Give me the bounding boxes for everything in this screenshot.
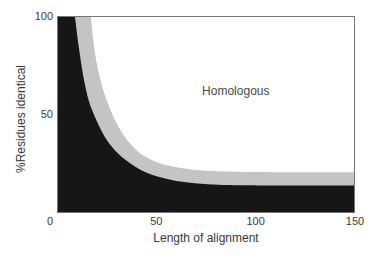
x-tick-label-50: 50 <box>136 215 176 228</box>
plot-area: Homologous <box>57 16 355 213</box>
x-tick-label-0: 0 <box>30 215 70 228</box>
homology-twilight-zone-chart: %Residues identical Homologous Length of… <box>0 0 378 258</box>
x-tick-label-150: 150 <box>335 215 375 228</box>
y-tick-label-100: 100 <box>19 10 53 23</box>
x-tick-label-100: 100 <box>236 215 276 228</box>
y-tick-label-50: 50 <box>19 108 53 121</box>
plot-canvas <box>57 16 355 213</box>
homologous-region-label: Homologous <box>166 84 306 98</box>
x-axis-title: Length of alignment <box>57 231 355 245</box>
